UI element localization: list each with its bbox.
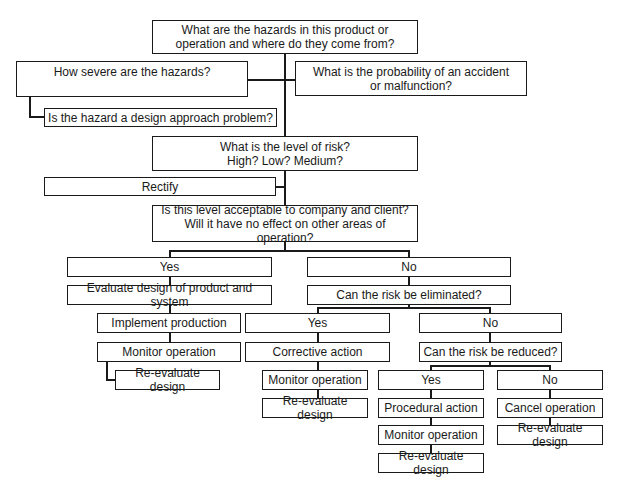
- connector-elim-yes-corrective: [317, 333, 319, 342]
- reduce-yes-box: Yes: [378, 370, 484, 390]
- reduce-question-label: Can the risk be reduced?: [423, 345, 557, 359]
- eliminate-question-label: Can the risk be eliminated?: [336, 288, 481, 302]
- reevaluate-mid-label: Re-evaluate design: [265, 394, 365, 422]
- connector-monitor-reevaluate: [106, 361, 108, 380]
- monitor-operation-right-box: Monitor operation: [378, 425, 484, 445]
- rectify-box: Rectify: [44, 177, 276, 196]
- connector-rectify: [276, 186, 285, 188]
- evaluate-design-label: Evaluate design of product and system: [70, 281, 269, 309]
- acceptable-no-box: No: [307, 257, 511, 277]
- corrective-action-label: Corrective action: [272, 345, 362, 359]
- spine-line: [284, 53, 286, 205]
- reduce-no-label: No: [542, 373, 557, 387]
- monitor-operation-mid-box: Monitor operation: [262, 370, 368, 390]
- acceptable-line2: Will it have no effect on other areas of…: [155, 217, 415, 245]
- reevaluate-right-label: Re-evaluate design: [381, 449, 481, 477]
- acceptable-yes-label: Yes: [160, 260, 180, 274]
- procedural-action-label: Procedural action: [384, 401, 477, 415]
- reduce-no-box: No: [497, 370, 603, 390]
- eliminate-yes-box: Yes: [245, 313, 390, 333]
- branch-acceptable: [169, 250, 409, 252]
- connector-severity-design: [29, 97, 31, 117]
- hazards-question-box: What are the hazards in this product or …: [152, 20, 418, 54]
- eliminate-question-box: Can the risk be eliminated?: [307, 285, 511, 305]
- connector-reduce-no-cancel: [549, 389, 551, 398]
- branch-no-drop: [408, 250, 410, 257]
- connector-implement-monitor: [169, 333, 171, 342]
- acceptable-yes-box: Yes: [67, 257, 272, 277]
- reevaluate-far-right-box: Re-evaluate design: [497, 425, 603, 445]
- reduce-question-box: Can the risk be reduced?: [419, 342, 562, 362]
- monitor-operation-left-label: Monitor operation: [122, 345, 215, 359]
- connector-no-eliminate: [408, 276, 410, 285]
- implement-production-label: Implement production: [111, 316, 226, 330]
- eliminate-no-box: No: [419, 313, 562, 333]
- cancel-operation-label: Cancel operation: [505, 401, 596, 415]
- eliminate-yes-label: Yes: [308, 316, 328, 330]
- risk-level-line2: High? Low? Medium?: [227, 154, 343, 168]
- design-approach-label: Is the hazard a design approach problem?: [48, 111, 273, 125]
- eliminate-no-label: No: [483, 316, 498, 330]
- severity-label: How severe are the hazards?: [54, 65, 211, 79]
- reevaluate-left-box: Re-evaluate design: [115, 370, 220, 390]
- reevaluate-mid-box: Re-evaluate design: [262, 398, 368, 418]
- branch-yes-drop: [169, 250, 171, 257]
- monitor-operation-left-box: Monitor operation: [97, 342, 241, 362]
- monitor-operation-right-label: Monitor operation: [384, 428, 477, 442]
- implement-production-box: Implement production: [97, 313, 241, 333]
- probability-line2: or malfunction?: [370, 79, 452, 93]
- connector-reduce-yes-procedural: [430, 389, 432, 398]
- acceptable-no-label: No: [401, 260, 416, 274]
- connector-severity-probability: [248, 79, 295, 81]
- corrective-action-box: Corrective action: [245, 342, 390, 362]
- risk-level-box: What is the level of risk? High? Low? Me…: [152, 136, 418, 171]
- connector-procedural-monitor: [430, 417, 432, 425]
- connector-monitor-reevaluate-h: [106, 379, 115, 381]
- rectify-label: Rectify: [142, 180, 179, 194]
- branch-reduce: [430, 365, 550, 367]
- monitor-operation-mid-label: Monitor operation: [268, 373, 361, 387]
- reevaluate-left-label: Re-evaluate design: [118, 366, 217, 394]
- branch-eliminate: [317, 307, 490, 309]
- reevaluate-right-box: Re-evaluate design: [378, 453, 484, 473]
- connector-corrective-monitor: [317, 361, 319, 370]
- risk-level-line1: What is the level of risk?: [220, 140, 350, 154]
- acceptable-line1: Is this level acceptable to company and …: [161, 203, 408, 217]
- connector-severity-design-h: [29, 116, 44, 118]
- reevaluate-far-right-label: Re-evaluate design: [500, 421, 600, 449]
- hazards-line1: What are the hazards in this product or: [182, 23, 389, 37]
- acceptable-box: Is this level acceptable to company and …: [152, 205, 418, 242]
- procedural-action-box: Procedural action: [378, 398, 484, 418]
- hazards-line2: operation and where do they come from?: [176, 37, 395, 51]
- probability-line1: What is the probability of an accident: [313, 65, 509, 79]
- design-approach-box: Is the hazard a design approach problem?: [44, 108, 277, 127]
- reduce-yes-label: Yes: [421, 373, 441, 387]
- probability-box: What is the probability of an accident o…: [295, 61, 527, 96]
- severity-box: How severe are the hazards?: [16, 61, 248, 97]
- cancel-operation-box: Cancel operation: [497, 398, 603, 418]
- evaluate-design-box: Evaluate design of product and system: [67, 285, 272, 305]
- connector-elim-no-reduce: [489, 333, 491, 342]
